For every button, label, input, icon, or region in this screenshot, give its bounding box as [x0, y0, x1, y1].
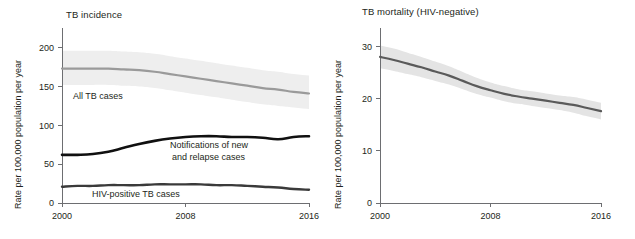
x-tick-label: 2000 [52, 211, 72, 221]
panel-tb-incidence: TB incidence Rate per 100,000 population… [0, 0, 320, 239]
y-tick-label: 30 [362, 42, 372, 52]
x-tick-label: 2016 [591, 211, 611, 221]
tb-figure: TB incidence Rate per 100,000 population… [0, 0, 635, 239]
y-tick-label: 10 [362, 146, 372, 156]
y-tick-label: 150 [39, 82, 54, 92]
y-tick-label: 50 [44, 159, 54, 169]
x-tick-label: 2000 [370, 211, 390, 221]
y-tick-label: 0 [49, 198, 54, 208]
y-tick-label: 100 [39, 121, 54, 131]
annotation-hiv-positive-tb-cases: HIV-positive TB cases [92, 189, 180, 199]
panel-tb-mortality: TB mortality (HIV-negative) Rate per 100… [320, 0, 635, 239]
y-tick-label: 0 [367, 198, 372, 208]
uncertainty-band-0 [380, 45, 601, 119]
x-tick-label: 2008 [480, 211, 500, 221]
mortality-plot: 0102030200020082016 [320, 0, 635, 239]
y-tick-label: 20 [362, 94, 372, 104]
annotation-notifications-line2: and relapse cases [172, 152, 246, 162]
annotation-notifications-line1: Notifications of new [170, 140, 249, 150]
x-tick-label: 2016 [299, 211, 319, 221]
y-tick-label: 200 [39, 43, 54, 53]
annotation-all-tb-cases: All TB cases [73, 91, 123, 101]
incidence-plot: 050100150200200020082016All TB casesNoti… [0, 0, 320, 239]
x-tick-label: 2008 [175, 211, 195, 221]
